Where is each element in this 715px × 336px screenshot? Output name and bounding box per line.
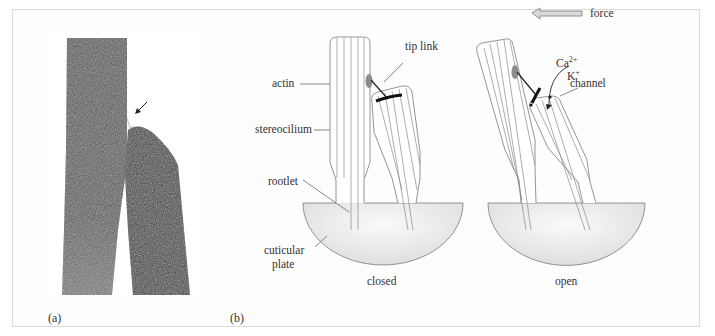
stereocilium-tall-open [477,39,536,203]
label-cuticular: cuticular [264,245,304,257]
force-arrow-icon [532,8,582,19]
cuticular-plate-closed [303,203,463,265]
caption-closed: closed [367,276,396,288]
arrow-icon [135,102,147,114]
cuticular-plate-open [488,203,645,265]
stereocilium-short-closed [372,86,420,203]
diagram-open [477,8,645,265]
label-actin: actin [272,78,294,90]
diagram-closed [300,37,463,265]
label-channel: channel [570,78,606,90]
label-rootlet: rootlet [268,176,298,188]
label-plate: plate [272,259,294,271]
caption-open: open [555,276,577,288]
label-stereocilium: stereocilium [255,124,312,136]
label-force: force [590,8,614,20]
tip-link-photo [127,118,133,128]
stereocilium-short-photo [125,126,190,295]
label-tip-link: tip link [405,41,438,53]
figure-graphics [0,0,715,336]
panel-a-label: (a) [48,311,61,326]
micrograph [62,38,190,295]
panel-b-label: (b) [230,311,244,326]
stereocilium-tall-photo [62,38,127,295]
